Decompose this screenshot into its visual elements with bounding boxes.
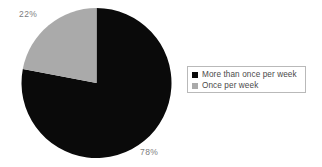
legend-label-once-per-week: Once per week xyxy=(202,81,258,91)
legend-swatch-black-icon xyxy=(192,72,198,78)
legend-swatch-gray-icon xyxy=(192,83,198,89)
pie-label-more-than-once-per-week: 78% xyxy=(140,147,158,157)
pie-label-once-per-week: 22% xyxy=(19,9,37,19)
pie-chart-figure: 22% 78% More than once per week Once per… xyxy=(0,0,322,167)
legend-label-more-than-once-per-week: More than once per week xyxy=(202,70,297,80)
chart-legend: More than once per week Once per week xyxy=(187,66,306,93)
legend-item-once-per-week[interactable]: Once per week xyxy=(192,81,301,91)
legend-item-more-than-once-per-week[interactable]: More than once per week xyxy=(192,70,301,80)
